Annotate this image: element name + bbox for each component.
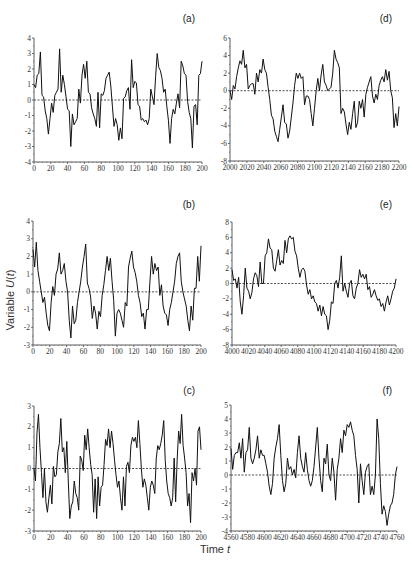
x-tick-label: 120 [129, 164, 141, 173]
y-tick-label: -2 [25, 127, 31, 136]
x-tick-label: 2180 [375, 163, 390, 172]
x-tick-label: 200 [195, 533, 207, 542]
x-tick-label: 140 [146, 164, 158, 173]
panel-a: (a)-4-3-2-101234020406080100120140160180… [25, 13, 208, 173]
y-tick-label: 1 [224, 457, 228, 466]
y-tick-label: 4 [223, 51, 227, 60]
x-tick-label: 120 [129, 533, 141, 542]
y-axis-label: Variable U(t) [4, 270, 16, 331]
y-tick-label: 8 [225, 218, 229, 227]
x-tick-label: 180 [179, 347, 191, 356]
x-tick-label: 4160 [356, 347, 371, 356]
y-tick-label: -2 [221, 104, 227, 113]
panel-e: (e)-8-6-4-202468400040204040406040804100… [223, 199, 404, 356]
x-tick-label: 4660 [307, 533, 322, 542]
x-tick-label: 4640 [290, 533, 305, 542]
y-tick-label: 1 [27, 80, 31, 89]
panel-label: (b) [183, 199, 195, 210]
x-tick-label: 4120 [323, 347, 338, 356]
x-tick-label: 180 [179, 533, 191, 542]
x-tick-label: 2160 [358, 163, 373, 172]
panel-label: (e) [380, 199, 392, 210]
panel-c: (c)-3-2-10123020406080100120140160180200 [25, 385, 207, 542]
y-tick-label: 2 [26, 252, 30, 261]
x-axis-label-var: t [227, 543, 231, 555]
y-tick-label: 2 [27, 422, 31, 431]
y-tick-label: -1 [25, 485, 31, 494]
y-tick-label: -4 [25, 158, 31, 167]
x-tick-label: 2020 [239, 163, 254, 172]
panel-label: (c) [183, 385, 195, 396]
y-tick-label: 4 [224, 415, 228, 424]
y-tick-label: 3 [26, 234, 30, 243]
y-axis-label-close: ) [4, 270, 16, 274]
x-tick-label: 2100 [307, 163, 322, 172]
panel-label: (a) [183, 13, 195, 24]
x-tick-label: 4040 [257, 347, 272, 356]
x-tick-label: 80 [96, 347, 104, 356]
y-tick-label: -4 [223, 310, 229, 319]
y-tick-label: -6 [221, 139, 227, 148]
y-tick-label: 6 [225, 233, 229, 242]
x-tick-label: 2200 [392, 163, 407, 172]
x-tick-label: 4180 [372, 347, 387, 356]
y-tick-label: -2 [25, 506, 31, 515]
y-tick-label: 0 [223, 86, 227, 95]
x-tick-label: 4100 [307, 347, 322, 356]
x-tick-label: 4760 [390, 533, 405, 542]
series-line [230, 50, 399, 141]
x-tick-label: 0 [32, 164, 36, 173]
x-tick-label: 2000 [223, 163, 238, 172]
y-tick-label: 4 [225, 248, 229, 257]
panel-label: (f) [383, 385, 392, 396]
y-tick-label: -2 [222, 499, 228, 508]
x-tick-label: 40 [64, 533, 72, 542]
x-tick-label: 20 [46, 347, 54, 356]
x-tick-label: 140 [145, 347, 157, 356]
y-tick-label: 0 [224, 471, 228, 480]
x-tick-label: 4020 [241, 347, 256, 356]
x-axis-label: Time t [200, 543, 231, 555]
y-tick-label: 2 [224, 443, 228, 452]
x-tick-label: 100 [112, 533, 124, 542]
y-tick-label: 3 [27, 402, 31, 411]
y-tick-label: -1 [222, 485, 228, 494]
y-tick-label: -1 [24, 305, 30, 314]
series-line [33, 242, 201, 338]
x-tick-label: 2140 [341, 163, 356, 172]
y-tick-label: -2 [223, 294, 229, 303]
x-tick-label: 4140 [339, 347, 354, 356]
x-axis-label-text: Time [200, 543, 227, 555]
y-tick-label: 2 [223, 69, 227, 78]
series-line [231, 419, 397, 525]
x-tick-label: 20 [47, 164, 55, 173]
x-tick-label: 100 [112, 164, 124, 173]
x-tick-label: 4080 [290, 347, 305, 356]
panel-b: (b)-3-2-10123402040608010012014016018020… [24, 199, 207, 356]
x-tick-label: 80 [97, 533, 105, 542]
x-tick-label: 60 [81, 164, 89, 173]
y-tick-label: -3 [24, 341, 30, 350]
y-tick-label: 0 [225, 279, 229, 288]
x-tick-label: 140 [145, 533, 157, 542]
x-tick-label: 120 [128, 347, 140, 356]
y-tick-label: 1 [26, 270, 30, 279]
x-tick-label: 4580 [240, 533, 255, 542]
x-tick-label: 4620 [273, 533, 288, 542]
x-tick-label: 4060 [274, 347, 289, 356]
x-tick-label: 4000 [225, 347, 240, 356]
x-tick-label: 200 [195, 347, 207, 356]
x-tick-label: 80 [97, 164, 105, 173]
y-tick-label: -4 [221, 121, 227, 130]
x-tick-label: 2060 [273, 163, 288, 172]
y-tick-label: 0 [26, 287, 30, 296]
y-tick-label: -6 [223, 325, 229, 334]
y-tick-label: 3 [224, 429, 228, 438]
y-tick-label: 0 [27, 464, 31, 473]
x-tick-label: 0 [31, 347, 35, 356]
x-tick-label: 2080 [290, 163, 305, 172]
panel-d: (d)-8-6-4-202462000202020402060208021002… [221, 13, 407, 172]
y-tick-label: -1 [25, 111, 31, 120]
x-tick-label: 180 [180, 164, 192, 173]
series-line [232, 236, 396, 330]
